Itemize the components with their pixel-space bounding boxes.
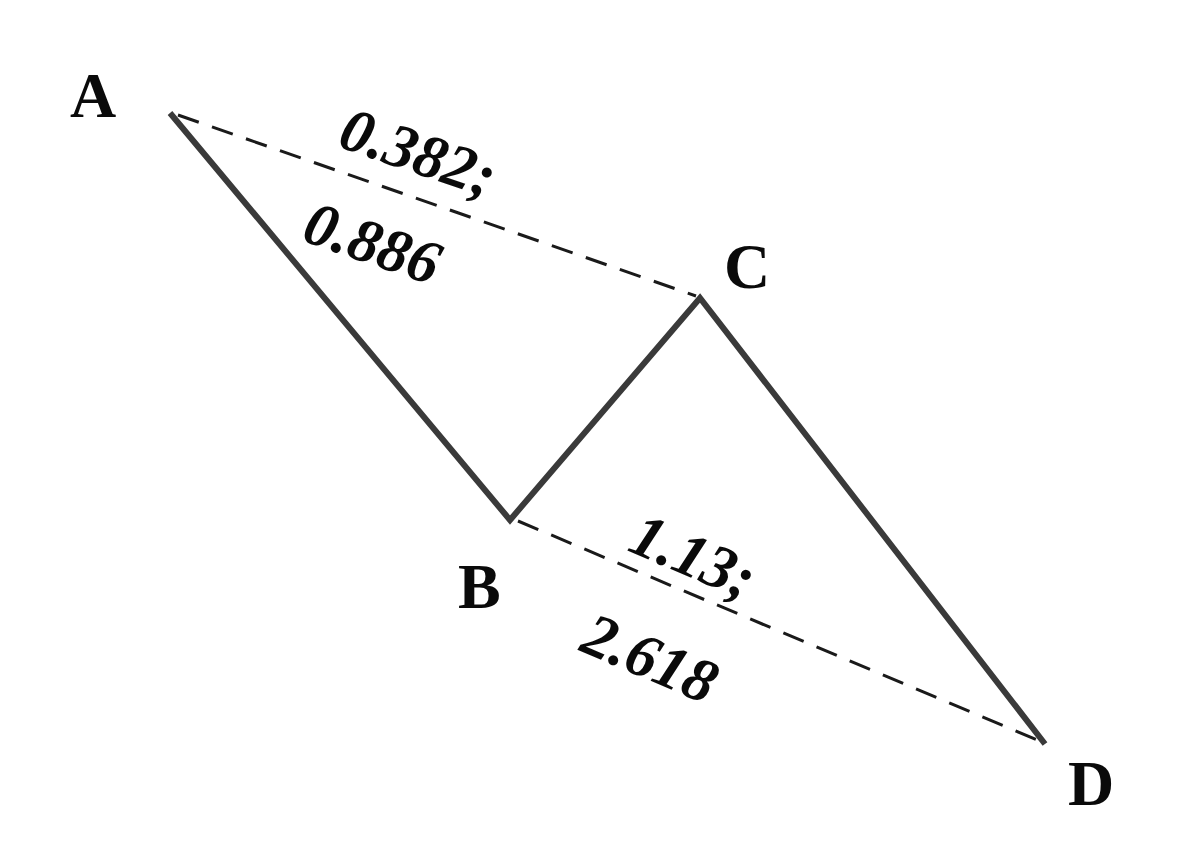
harmonic-pattern-diagram: A B C D 0.382; 0.886 1.13; 2.618 — [0, 0, 1191, 856]
point-label-c: C — [724, 231, 770, 302]
bd-ratio-label-2: 2.618 — [572, 599, 728, 716]
ac-ratio-label-2: 0.886 — [296, 188, 450, 298]
ac-ratio-line2: 0.886 — [296, 188, 450, 298]
ac-ratio-line1: 0.382; — [332, 94, 506, 210]
point-label-d: D — [1068, 748, 1114, 819]
bd-ratio-line2: 2.618 — [572, 599, 728, 716]
ac-ratio-label: 0.382; — [332, 94, 506, 210]
point-label-a: A — [70, 60, 116, 131]
point-label-b: B — [458, 551, 501, 622]
